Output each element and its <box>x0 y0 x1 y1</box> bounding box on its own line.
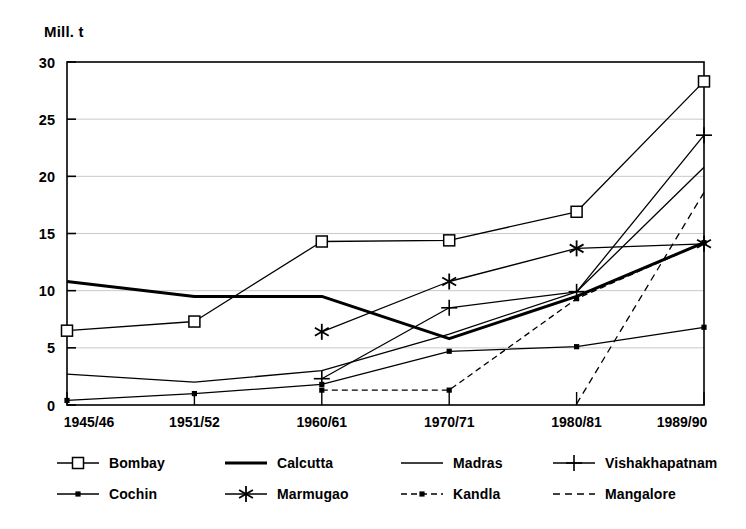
data-point-marker <box>189 316 200 327</box>
legend-label: Kandla <box>453 486 500 502</box>
legend-item-mangalore[interactable]: Mangalore <box>552 486 728 502</box>
data-point-marker <box>571 206 582 217</box>
data-point-marker <box>62 325 73 336</box>
legend-item-vishakhapatnam[interactable]: Vishakhapatnam <box>552 455 728 471</box>
series-line <box>322 135 704 379</box>
data-point-marker <box>64 398 69 403</box>
legend-swatch-line-plus-marker <box>552 455 596 471</box>
legend-swatch-thin-solid-line <box>400 455 444 471</box>
data-point-marker <box>75 491 80 496</box>
y-tick-label: 0 <box>47 398 55 414</box>
data-point-marker <box>73 457 84 468</box>
data-point-marker <box>447 349 452 354</box>
data-point-marker <box>574 344 579 349</box>
chart-container: Mill. t 051015202530 1945/461951/521960/… <box>0 0 746 529</box>
legend-label: Marmugao <box>277 486 349 502</box>
legend-label: Cochin <box>109 486 157 502</box>
legend-swatch-line-asterisk-marker <box>224 486 268 502</box>
legend-swatch-thick-solid-line <box>224 455 268 471</box>
series-line <box>577 192 704 404</box>
gridlines-group <box>67 119 704 348</box>
x-tick-marks <box>67 392 704 405</box>
legend-swatch-line-dot-marker <box>56 486 100 502</box>
x-tick-label: 1980/81 <box>551 414 602 430</box>
legend-swatch-dash-dot-line-dot-marker <box>400 486 444 502</box>
series-line <box>67 327 704 400</box>
y-tick-labels: 051015202530 <box>39 55 55 414</box>
legend-swatch-line-open-square-marker <box>56 455 100 471</box>
data-point-marker <box>701 325 706 330</box>
data-point-marker <box>444 235 455 246</box>
y-tick-label: 10 <box>39 283 55 299</box>
data-point-marker <box>419 491 424 496</box>
y-tick-label: 30 <box>39 55 55 71</box>
y-tick-label: 5 <box>47 340 55 356</box>
legend-label: Bombay <box>109 455 165 471</box>
data-point-marker <box>319 382 324 387</box>
chart-legend: BombayCalcuttaMadrasVishakhapatnamCochin… <box>56 447 728 509</box>
data-point-marker <box>192 391 197 396</box>
data-point-marker <box>447 388 452 393</box>
legend-item-cochin[interactable]: Cochin <box>56 486 224 502</box>
legend-item-kandla[interactable]: Kandla <box>400 486 552 502</box>
series-lines-layer <box>62 76 713 404</box>
legend-label: Calcutta <box>277 455 333 471</box>
legend-item-madras[interactable]: Madras <box>400 455 552 471</box>
legend-item-marmugao[interactable]: Marmugao <box>224 486 400 502</box>
data-point-marker <box>701 240 706 245</box>
data-point-marker <box>316 236 327 247</box>
legend-label: Madras <box>453 455 503 471</box>
data-point-marker <box>574 296 579 301</box>
legend-item-calcutta[interactable]: Calcutta <box>224 455 400 471</box>
legend-label: Mangalore <box>605 486 676 502</box>
y-tick-label: 25 <box>39 112 55 128</box>
y-tick-label: 20 <box>39 169 55 185</box>
data-point-marker <box>699 76 710 87</box>
x-tick-labels: 1945/461951/521960/611970/711980/811989/… <box>64 414 708 430</box>
x-tick-label: 1951/52 <box>169 414 220 430</box>
y-tick-marks <box>67 62 76 405</box>
x-tick-label: 1989/90 <box>657 414 708 430</box>
y-tick-label: 15 <box>39 226 55 242</box>
legend-swatch-dashed-line <box>552 486 596 502</box>
data-point-marker <box>319 388 324 393</box>
legend-item-bombay[interactable]: Bombay <box>56 455 224 471</box>
legend-label: Vishakhapatnam <box>605 455 717 471</box>
x-tick-label: 1960/61 <box>296 414 347 430</box>
x-tick-label: 1945/46 <box>64 414 115 430</box>
x-tick-label: 1970/71 <box>424 414 475 430</box>
